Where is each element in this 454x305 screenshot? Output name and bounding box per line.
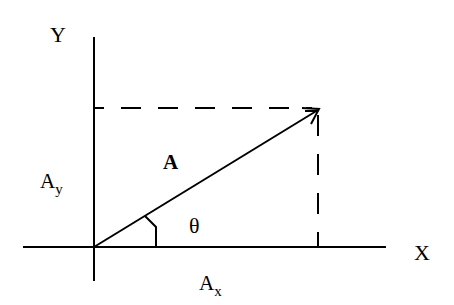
y-component-label: Ay (40, 171, 63, 192)
x-component-label: Ax (199, 273, 222, 294)
vector-a-line (94, 110, 318, 247)
vector-diagram (0, 0, 454, 305)
y-axis-label: Y (50, 24, 66, 46)
y-component-base: A (40, 169, 55, 193)
x-axis-label: X (414, 242, 430, 264)
y-component-subscript: y (55, 181, 63, 197)
angle-theta-label: θ (189, 215, 200, 237)
x-component-base: A (199, 271, 214, 295)
x-component-subscript: x (214, 283, 222, 299)
angle-marker-icon (145, 216, 156, 247)
vector-a-label: A (163, 152, 178, 173)
